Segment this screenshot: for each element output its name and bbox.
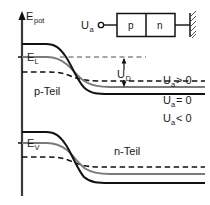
- bias-label-zero-main: U: [163, 94, 171, 106]
- bias-label-forward-relation: > 0: [176, 74, 192, 86]
- terminal-circle-icon: [98, 22, 103, 27]
- source-label-main: U: [81, 19, 89, 31]
- diffusion-voltage-label-main: U: [117, 68, 125, 80]
- valence-level-label-sub: V: [35, 143, 40, 152]
- valence-curve-forward-bias: [22, 157, 205, 167]
- valence-level-label-main: E: [27, 137, 34, 149]
- p-block-label: p: [128, 20, 134, 31]
- p-region-label: p-Teil: [34, 85, 60, 97]
- bias-label-reverse-main: U: [163, 112, 171, 124]
- y-axis-arrowhead: [18, 11, 25, 20]
- conduction-level-label-main: E: [27, 51, 34, 63]
- bias-label-zero: U a = 0: [163, 94, 192, 109]
- bias-label-zero-relation: = 0: [176, 94, 192, 106]
- circuit-schematic: [98, 11, 196, 38]
- conduction-level-label-sub: L: [35, 57, 39, 66]
- band-diagram-figure: U a p n U D: [0, 0, 210, 205]
- source-label-sub: a: [90, 25, 95, 34]
- diffusion-voltage-label-sub: D: [126, 74, 132, 83]
- y-axis-label-main: E: [26, 10, 33, 22]
- y-axis: [18, 11, 25, 196]
- n-region-label: n-Teil: [114, 145, 140, 157]
- ground-hatch-icon: [190, 11, 196, 38]
- bias-label-reverse-relation: < 0: [176, 112, 192, 124]
- n-block-label: n: [157, 20, 163, 31]
- y-axis-label-sub: pot: [34, 16, 45, 25]
- bias-label-forward-main: U: [163, 74, 171, 86]
- bias-label-reverse: U a < 0: [163, 112, 192, 127]
